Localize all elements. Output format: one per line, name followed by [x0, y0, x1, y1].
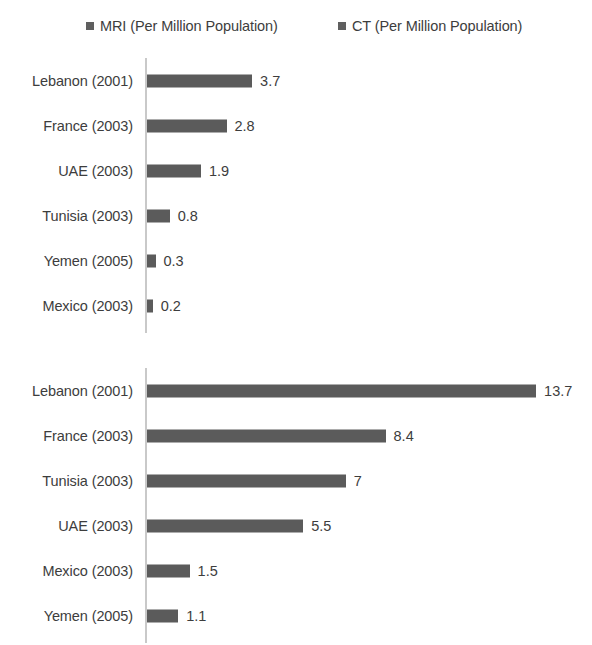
bar	[147, 564, 190, 577]
table-row: Lebanon (2001) 3.7	[0, 58, 592, 103]
bar-chart: MRI (Per Million Population) CT (Per Mil…	[0, 0, 592, 645]
value-label: 13.7	[544, 383, 572, 399]
value-label: 1.9	[209, 163, 229, 179]
category-label: Tunisia (2003)	[0, 208, 133, 224]
category-label: UAE (2003)	[0, 163, 133, 179]
category-label: Yemen (2005)	[0, 253, 133, 269]
bar	[147, 474, 346, 487]
value-label: 5.5	[311, 518, 331, 534]
value-label: 1.1	[186, 608, 206, 624]
legend-label-mri: MRI (Per Million Population)	[100, 18, 278, 34]
legend-item-mri: MRI (Per Million Population)	[86, 18, 278, 34]
bar	[147, 74, 252, 87]
legend-item-ct: CT (Per Million Population)	[338, 18, 522, 34]
table-row: UAE (2003) 1.9	[0, 148, 592, 193]
value-label: 7	[354, 473, 362, 489]
value-label: 0.8	[178, 208, 198, 224]
bar	[147, 164, 201, 177]
table-row: Mexico (2003) 1.5	[0, 548, 592, 593]
value-label: 0.2	[161, 298, 181, 314]
table-row: UAE (2003) 5.5	[0, 503, 592, 548]
legend-swatch-mri-icon	[86, 22, 94, 30]
table-row: Yemen (2005) 0.3	[0, 238, 592, 283]
ct-panel: Lebanon (2001) 13.7 France (2003) 8.4 Tu…	[0, 368, 592, 643]
mri-panel: Lebanon (2001) 3.7 France (2003) 2.8 UAE…	[0, 58, 592, 333]
chart-legend: MRI (Per Million Population) CT (Per Mil…	[0, 18, 592, 42]
category-label: Mexico (2003)	[0, 298, 133, 314]
bar	[147, 119, 227, 132]
table-row: France (2003) 2.8	[0, 103, 592, 148]
bar	[147, 384, 536, 397]
category-label: Lebanon (2001)	[0, 383, 133, 399]
bar	[147, 609, 178, 622]
table-row: Tunisia (2003) 7	[0, 458, 592, 503]
value-label: 1.5	[198, 563, 218, 579]
category-label: France (2003)	[0, 428, 133, 444]
value-label: 0.3	[164, 253, 184, 269]
bar	[147, 519, 303, 532]
table-row: Yemen (2005) 1.1	[0, 593, 592, 638]
table-row: France (2003) 8.4	[0, 413, 592, 458]
value-label: 2.8	[235, 118, 255, 134]
bar	[147, 299, 153, 312]
value-label: 3.7	[260, 73, 280, 89]
legend-label-ct: CT (Per Million Population)	[352, 18, 522, 34]
category-label: France (2003)	[0, 118, 133, 134]
category-label: Tunisia (2003)	[0, 473, 133, 489]
category-label: Lebanon (2001)	[0, 73, 133, 89]
category-label: Mexico (2003)	[0, 563, 133, 579]
table-row: Mexico (2003) 0.2	[0, 283, 592, 328]
table-row: Lebanon (2001) 13.7	[0, 368, 592, 413]
value-label: 8.4	[394, 428, 414, 444]
table-row: Tunisia (2003) 0.8	[0, 193, 592, 238]
bar	[147, 209, 170, 222]
category-label: Yemen (2005)	[0, 608, 133, 624]
bar	[147, 429, 386, 442]
legend-swatch-ct-icon	[338, 22, 346, 30]
category-label: UAE (2003)	[0, 518, 133, 534]
bar	[147, 254, 156, 267]
